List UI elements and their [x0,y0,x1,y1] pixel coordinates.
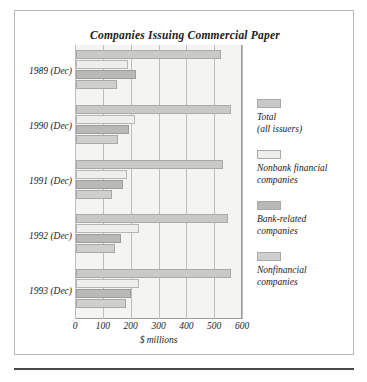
legend-item[interactable]: Total(all issuers) [257,99,353,135]
category-axis-labels: 1989 (Dec)1990 (Dec)1991 (Dec)1992 (Dec)… [15,45,72,319]
bar[interactable] [76,214,228,223]
category-label: 1990 (Dec) [16,121,72,131]
bar[interactable] [76,105,231,114]
bar-row [76,244,241,253]
x-tick-label: 0 [73,321,78,331]
bar-row [76,289,241,298]
bar[interactable] [76,190,112,199]
x-tick-label: 300 [151,321,165,331]
bar[interactable] [76,299,126,308]
x-tick-label: 500 [207,321,221,331]
bar[interactable] [76,180,123,189]
chart-title: Companies Issuing Commercial Paper [15,29,355,41]
bar[interactable] [76,224,139,233]
bar-row [76,125,241,134]
gridline-600 [242,45,243,319]
bar-row [76,50,241,59]
bar-row [76,160,241,169]
x-tick-label: 400 [179,321,193,331]
category-label: 1991 (Dec) [16,176,72,186]
chart-legend: Total(all issuers)Nonbank financialcompa… [257,99,353,303]
legend-swatch [257,252,281,261]
bar-row [76,70,241,79]
bar-row [76,214,241,223]
bar-row [76,224,241,233]
bar[interactable] [76,60,128,69]
figure-frame: Companies Issuing Commercial Paper 1989 … [14,10,354,355]
category-label: 1989 (Dec) [16,66,72,76]
bottom-rule [14,368,354,370]
legend-label: Bank-relatedcompanies [257,214,353,237]
x-tick-label: 200 [124,321,138,331]
bar-row [76,190,241,199]
bar-group [76,269,241,309]
bar-row [76,80,241,89]
legend-item[interactable]: Bank-relatedcompanies [257,201,353,237]
bar[interactable] [76,234,121,243]
x-axis-ticks: 0100200300400500600 [75,321,242,333]
x-axis-label: $ millions [75,335,242,345]
bar-row [76,170,241,179]
legend-item[interactable]: Nonbank financialcompanies [257,150,353,186]
legend-label: Nonfinancialcompanies [257,265,353,288]
category-label: 1992 (Dec) [16,231,72,241]
x-tick-label: 100 [96,321,110,331]
legend-swatch [257,150,281,159]
bar[interactable] [76,115,135,124]
bar-row [76,234,241,243]
category-label: 1993 (Dec) [16,286,72,296]
bar-row [76,105,241,114]
bar-row [76,299,241,308]
bar-row [76,60,241,69]
bar-row [76,279,241,288]
bar[interactable] [76,244,115,253]
bar-group [76,214,241,254]
bar-group [76,105,241,145]
bar[interactable] [76,125,129,134]
bar[interactable] [76,135,118,144]
bar[interactable] [76,269,231,278]
bar[interactable] [76,80,117,89]
legend-item[interactable]: Nonfinancialcompanies [257,252,353,288]
figure-page: Companies Issuing Commercial Paper 1989 … [0,0,367,382]
legend-swatch [257,99,281,108]
legend-swatch [257,201,281,210]
legend-label: Total(all issuers) [257,112,353,135]
bar[interactable] [76,50,221,59]
bar-row [76,115,241,124]
bar-group [76,160,241,200]
bar[interactable] [76,289,131,298]
bar-row [76,269,241,278]
x-tick-label: 600 [235,321,249,331]
bar-row [76,180,241,189]
bar-row [76,135,241,144]
bar-group [76,50,241,90]
bar[interactable] [76,70,136,79]
plot-area [75,45,242,319]
bar[interactable] [76,160,223,169]
bar[interactable] [76,170,127,179]
bar[interactable] [76,279,139,288]
legend-label: Nonbank financialcompanies [257,163,353,186]
